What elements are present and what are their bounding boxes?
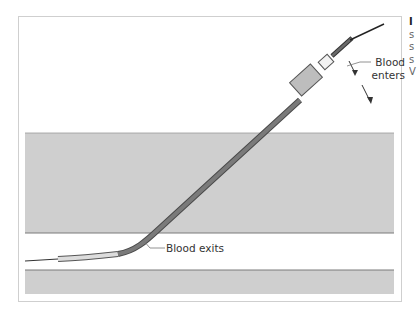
catheter-diagram <box>0 0 420 311</box>
label-blood-enters-line2: enters <box>369 69 405 82</box>
caption-line-4: V <box>409 66 420 79</box>
caption-line-2: s <box>409 41 420 54</box>
lower-tissue-band <box>25 270 394 294</box>
label-blood-exits: Blood exits <box>166 242 224 255</box>
catheter-hub <box>290 64 323 96</box>
label-blood-enters: Blood enters <box>369 56 405 82</box>
label-blood-enters-line1: Blood <box>369 56 405 69</box>
caption-line-0: I <box>409 16 420 29</box>
hub-collar <box>318 54 334 69</box>
blood-flow-arrow-2 <box>362 85 373 104</box>
caption-line-1: s <box>409 29 420 42</box>
needle-tip-left <box>25 259 58 261</box>
caption-line-3: s <box>409 54 420 67</box>
needle <box>350 24 384 40</box>
side-caption-fragment: I s s s V <box>409 16 420 79</box>
